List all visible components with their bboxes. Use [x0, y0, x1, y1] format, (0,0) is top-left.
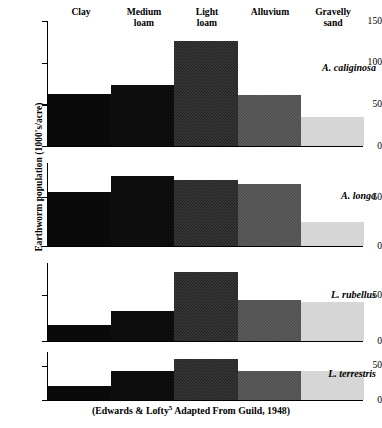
figure-caption: (Edwards & Lofty5 Adapted From Guild, 19…: [0, 404, 382, 416]
y-axis-tick: [42, 400, 48, 401]
caption-text-pre: (Edwards & Lofty: [92, 405, 169, 416]
x-axis-line: [47, 400, 363, 401]
y-axis-tick: [42, 366, 48, 367]
species-label: L. terrestris: [328, 368, 376, 379]
bar-medium-loam: [111, 371, 174, 400]
caption-text-post: Adapted From Guild, 1948): [172, 405, 290, 416]
bar-clay: [48, 386, 111, 400]
panel-l-terrestris: 050L. terrestris: [0, 0, 382, 428]
bar-light-loam: [174, 359, 237, 400]
earthworm-population-figure: Earthworm population (1000's/acre) Clay …: [0, 0, 382, 428]
bar-alluvium: [238, 371, 301, 400]
